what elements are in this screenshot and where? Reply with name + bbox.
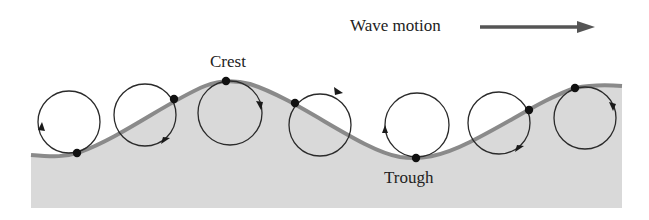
water-particle (222, 77, 230, 85)
orbit-direction-arrow-icon (382, 125, 388, 133)
orbit-circle (385, 93, 449, 157)
water-particle (170, 95, 178, 103)
crest-label: Crest (210, 52, 246, 71)
water-particle (73, 149, 81, 157)
water-particle (525, 106, 533, 114)
wave-motion-label: Wave motion (350, 16, 441, 35)
water-body (31, 81, 622, 208)
orbit-direction-arrow-icon (334, 87, 343, 95)
water-particle (291, 99, 299, 107)
trough-label: Trough (384, 168, 434, 187)
particle-orbit-5 (382, 93, 449, 162)
water-particle (571, 84, 579, 92)
orbit-direction-arrow-icon (38, 122, 45, 131)
water-particle (412, 154, 420, 162)
orbit-circle (38, 91, 100, 153)
wave-orbital-motion-diagram: Crest Trough Wave motion (0, 0, 649, 220)
wave-direction-arrow-icon (480, 21, 595, 33)
